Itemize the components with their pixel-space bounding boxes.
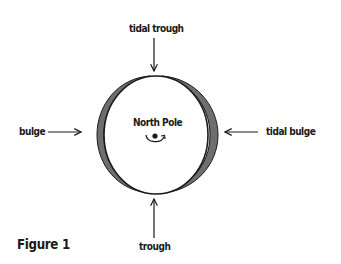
label-north-pole: North Pole <box>133 117 182 128</box>
label-trough: trough <box>139 241 170 252</box>
label-bulge: bulge <box>19 126 45 137</box>
pole-dot-icon <box>152 133 157 138</box>
label-tidal-trough: tidal trough <box>129 23 184 34</box>
tidal-diagram: tidal trough North Pole bulge tidal bulg… <box>0 0 341 264</box>
label-tidal-bulge: tidal bulge <box>266 126 315 137</box>
figure-caption: Figure 1 <box>17 237 70 251</box>
